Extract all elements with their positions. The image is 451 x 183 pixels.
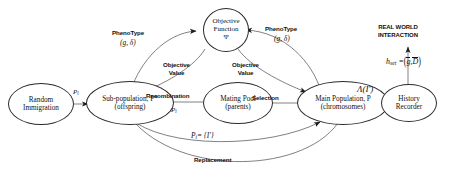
node-random-immigration-line-1: Random: [29, 96, 53, 104]
label-h-set-g: g: [406, 57, 410, 66]
node-main-population-line-2: (chromosomes): [321, 103, 366, 111]
label-selection-text: Selection: [252, 94, 279, 101]
label-h-set-formula: hset =(g,D): [386, 57, 421, 66]
label-objective-value-right-line-2: Value: [232, 69, 259, 77]
label-objective-value-left-line-2: Value: [163, 69, 190, 77]
node-random-immigration-line-2: Immigration: [23, 104, 59, 112]
label-immigration-flow-subscript: i: [77, 91, 78, 96]
node-history-recorder[interactable]: History Recorder: [381, 84, 437, 122]
node-objective-function-symbol: Ψ: [223, 34, 228, 42]
node-history-recorder-line-2: Recorder: [396, 103, 422, 111]
node-main-population[interactable]: Main Population, P (chromosomes): [297, 81, 389, 125]
node-mating-pool-line-1: Mating Pool: [220, 95, 256, 103]
label-replacement: Replacement: [194, 156, 231, 163]
label-lambda-record: Λ(I'): [357, 84, 373, 94]
label-selection: Selection: [252, 94, 279, 101]
label-h-set-g-bar: g: [406, 57, 410, 66]
label-pi-equals-set: Pi= {I'}: [191, 131, 214, 140]
label-pi-equals-rest: = {I'}: [197, 131, 214, 140]
label-phenotype-left-formula: (g, δ): [120, 38, 136, 47]
label-phenotype-right-formula-text: (g, δ): [274, 34, 290, 43]
node-random-immigration[interactable]: Random Immigration: [8, 83, 74, 125]
label-objective-value-right-line-1: Objective: [232, 61, 259, 69]
node-history-recorder-line-1: History: [398, 95, 420, 103]
label-real-world-line-2: INTERACTION: [378, 32, 418, 40]
label-lambda-record-text: Λ(I'): [357, 84, 373, 94]
node-sub-population[interactable]: Sub-population, P* (offspring): [86, 81, 174, 125]
label-recombination-text: Recombination: [146, 92, 189, 99]
node-mating-pool-line-2: (parents): [225, 103, 251, 111]
label-recombination-formula: Pi: [171, 106, 177, 114]
label-objective-value-right: Objective Value: [232, 61, 259, 77]
node-main-population-line-1: Main Population, P: [315, 95, 371, 103]
label-real-world-line-1: REAL WORLD: [378, 24, 418, 32]
diagram-canvas: Random Immigration Sub-population, P* (o…: [0, 0, 451, 183]
node-objective-function[interactable]: Objective Function Ψ: [203, 8, 249, 52]
label-objective-value-left: Objective Value: [163, 61, 190, 77]
label-phenotype-right: PhenoType: [265, 25, 297, 32]
label-recombination: Recombination: [146, 92, 189, 99]
node-mating-pool[interactable]: Mating Pool (parents): [203, 82, 273, 124]
label-phenotype-left: PhenoType: [112, 29, 144, 36]
label-replacement-text: Replacement: [194, 156, 231, 163]
label-h-set-subscript: set: [390, 60, 396, 66]
label-phenotype-right-text: PhenoType: [265, 25, 297, 32]
label-objective-value-left-line-1: Objective: [163, 61, 190, 69]
node-sub-population-line-2: (offspring): [114, 103, 145, 111]
label-phenotype-left-text: PhenoType: [112, 29, 144, 36]
overbar-g: [406, 57, 410, 58]
label-immigration-flow: Pi: [73, 88, 79, 96]
label-h-set-paren-close: ): [418, 55, 421, 68]
label-real-world-interaction: REAL WORLD INTERACTION: [378, 24, 418, 40]
label-phenotype-left-formula-text: (g, δ): [120, 38, 136, 47]
label-recombination-formula-subscript: i: [175, 109, 176, 114]
label-phenotype-right-formula: (g, δ): [274, 34, 290, 43]
